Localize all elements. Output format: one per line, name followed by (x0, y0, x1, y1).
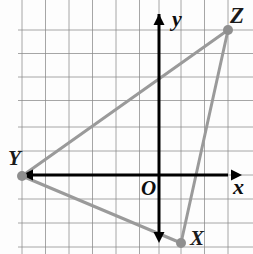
figure-canvas (0, 0, 253, 254)
vertex-label-x: X (190, 228, 204, 249)
vertex-marker-y (17, 171, 27, 181)
x-axis-label: x (233, 176, 244, 198)
vertex-marker-x (176, 238, 186, 248)
y-axis-label: y (172, 8, 182, 30)
vertex-label-z: Z (230, 4, 244, 27)
vertex-label-y: Y (8, 148, 21, 169)
coordinate-plane-figure: Z Y X y x O (0, 0, 253, 254)
origin-label: O (141, 178, 156, 199)
